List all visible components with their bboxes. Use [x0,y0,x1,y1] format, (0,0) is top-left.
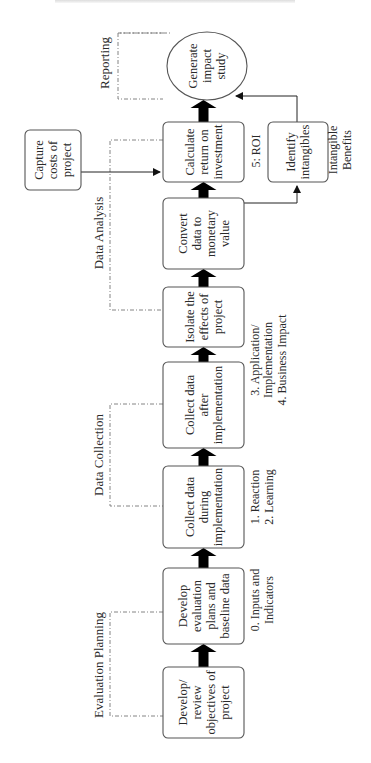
flow-arrow-icon [191,347,217,362]
flow-arrow-icon [191,644,217,667]
step-label-isolate-line: effects of [197,293,211,340]
side-label-intangibles-line: intangibles [298,124,312,179]
level-label-application-line: 3. Application/ [248,324,262,396]
step-label-convert-line: value [218,220,232,248]
phase-label-planning-line: Evaluation Planning [91,612,106,718]
level-label-inputs-line: Indicators [262,576,276,624]
level-label-roi-line: 5: ROI [249,134,263,167]
level-label-application: 3. Application/Implementation4. Business… [248,314,289,406]
level-label-reaction-line: 2. Learning [262,469,276,524]
step-label-isolate-line: project [211,299,225,334]
phase-label-reporting: Reporting [97,37,112,89]
level-label-reaction: 1. Reaction2. Learning [248,469,275,524]
phase-label-planning: Evaluation Planning [91,612,106,718]
step-label-convert-line: monetary [204,209,218,257]
step-label-objectives-line: Develop/ [176,679,190,725]
side-label-costs-line: Capture [32,140,46,180]
flow-arrow-icon [191,448,217,466]
phase-bracket-collection [110,404,163,506]
level-label-inputs-line: 0. Inputs and [248,569,262,631]
side-label-costs: Capturecosts ofproject [32,140,74,180]
step-label-objectives-line: project [218,685,232,720]
step-label-isolate-line: Isolate the [183,291,197,343]
step-label-convert-line: Convert [176,213,190,254]
phase-label-collection-line: Data Collection [91,414,106,496]
step-label-objectives-line: objectives of [204,670,218,735]
step-label-plans-line: evaluation [190,579,204,632]
step-label-collect-after-line: Collect data [183,375,197,435]
level-label-inputs: 0. Inputs andIndicators [248,569,275,631]
step-label-plans-line: plans and [204,581,218,629]
phase-bracket-planning [110,612,163,716]
level-label-intangible-line: Intangible [326,126,340,175]
level-label-reaction-line: 1. Reaction [248,470,262,525]
side-label-intangibles: Identifyintangibles [284,124,312,179]
flow-arrow-icon [191,548,217,568]
flow-arrow-icon [191,269,217,287]
step-label-plans-line: baseline data [218,573,232,638]
step-label-collect-during-line: implementation [211,467,225,546]
flow-arrow-icon [191,182,217,198]
step-label-convert-line: data to [190,217,204,251]
phase-bracket-reporting [118,33,163,99]
phase-label-collection: Data Collection [91,414,106,496]
step-label-roi-line: investment [211,124,225,179]
phase-bracket-analysis [110,140,163,310]
step-label-report-line: Generate [186,43,200,89]
flow-arrow-icon [191,100,217,122]
step-label-collect-after-line: implementation [211,365,225,444]
roi-process-diagram: Develop/reviewobjectives ofprojectDevelo… [0,0,371,763]
phase-label-analysis: Data Analysis [91,197,106,270]
level-label-application-line: 4. Business Impact [275,314,289,406]
step-label-collect-after-line: after [197,393,211,417]
side-label-costs-line: project [60,142,74,177]
phase-label-analysis-line: Data Analysis [91,197,106,270]
step-label-objectives-line: review [190,685,204,719]
step-label-report-line: impact [200,48,214,83]
report-arrow-icon [236,96,297,122]
step-label-report-line: study [214,52,228,80]
step-label-roi: Calculatereturn oninvestment [183,124,225,179]
level-label-application-line: Implementation [261,322,275,398]
level-label-roi: 5: ROI [249,134,263,167]
step-label-collect-during-line: during [197,490,211,523]
level-label-intangible: IntangibleBenefits [326,126,353,175]
phase-label-reporting-line: Reporting [97,37,112,89]
step-label-roi-line: return on [197,129,211,175]
level-label-intangible-line: Benefits [340,130,354,170]
side-label-costs-line: costs of [46,140,60,179]
step-label-plans-line: Develop [176,585,190,627]
step-label-roi-line: Calculate [183,128,197,176]
step-label-collect-during-line: Collect data [183,477,197,537]
side-label-intangibles-line: Identify [284,131,298,171]
